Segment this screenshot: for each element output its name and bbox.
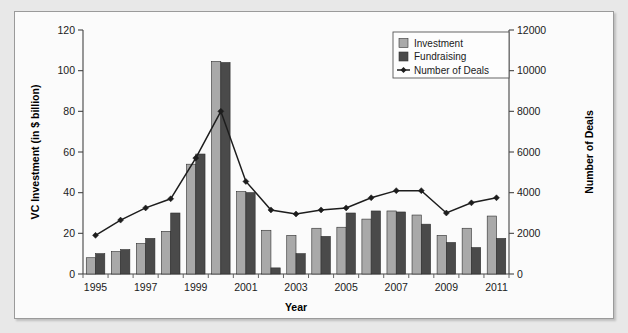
- bar-investment-2003: [287, 235, 296, 274]
- bar-fundraising-2011: [496, 238, 505, 274]
- bar-fundraising-2004: [321, 236, 330, 274]
- deals-marker-2006: [368, 195, 374, 201]
- bar-investment-1997: [136, 244, 145, 275]
- y-tick-label-right: 0: [517, 268, 523, 280]
- y-tick-label-left: 100: [57, 64, 75, 76]
- y-tick-label-right: 10000: [517, 64, 546, 76]
- y-tick-label-left: 20: [63, 227, 75, 239]
- bar-fundraising-1998: [171, 213, 180, 274]
- y-tick-label-left: 120: [57, 24, 75, 36]
- x-tick-label: 2009: [435, 281, 459, 293]
- deals-marker-1997: [143, 205, 149, 211]
- deals-marker-2005: [343, 205, 349, 211]
- bar-fundraising-1996: [121, 250, 130, 274]
- deals-marker-2011: [493, 195, 499, 201]
- x-tick-label: 1999: [184, 281, 208, 293]
- bar-investment-1998: [161, 231, 170, 274]
- y-axis-right: 020004000600080001000012000: [509, 24, 546, 280]
- bar-investment-2011: [487, 216, 496, 274]
- bar-investment-2004: [312, 228, 321, 274]
- legend-label-fundraising: Fundraising: [414, 51, 466, 62]
- vc-investment-chart: 020406080100120 020004000600080001000012…: [15, 12, 613, 318]
- bar-fundraising-1995: [96, 254, 105, 274]
- x-tick-label: 2001: [234, 281, 258, 293]
- line-series-number-of-deals: [93, 108, 500, 238]
- x-tick-label: 2007: [385, 281, 409, 293]
- x-tick-label: 2005: [334, 281, 358, 293]
- legend-swatch-fundraising: [399, 52, 408, 61]
- bar-fundraising-2000: [221, 63, 230, 274]
- deals-marker-2004: [318, 207, 324, 213]
- y-tick-label-right: 6000: [517, 146, 541, 158]
- bar-investment-2010: [462, 228, 471, 274]
- bar-investment-1995: [86, 258, 95, 274]
- bar-fundraising-2007: [396, 212, 405, 274]
- y-tick-label-right: 8000: [517, 105, 541, 117]
- y-tick-label-left: 60: [63, 146, 75, 158]
- legend-swatch-investment: [399, 39, 408, 48]
- y-tick-label-left: 80: [63, 105, 75, 117]
- bar-investment-2001: [237, 192, 246, 274]
- y-axis-right-title: Number of Deals: [583, 110, 595, 194]
- bar-investment-2009: [437, 235, 446, 274]
- bar-fundraising-1999: [196, 154, 205, 274]
- x-tick-label: 1997: [134, 281, 158, 293]
- bar-investment-1999: [186, 164, 195, 274]
- bar-investment-2005: [337, 227, 346, 274]
- x-axis: 199519971999200120032005200720092011: [83, 274, 509, 293]
- bar-fundraising-2006: [371, 211, 380, 274]
- x-tick-label: 1995: [84, 281, 108, 293]
- bar-investment-2007: [387, 211, 396, 274]
- y-tick-label-right: 2000: [517, 227, 541, 239]
- x-axis-title: Year: [285, 301, 307, 313]
- y-axis-left-title: VC Investment (in $ billion): [29, 85, 41, 220]
- bar-investment-2006: [362, 219, 371, 274]
- y-tick-label-left: 0: [69, 268, 75, 280]
- bar-fundraising-2005: [346, 213, 355, 274]
- bar-fundraising-2003: [296, 254, 305, 274]
- deals-marker-2007: [393, 188, 399, 194]
- x-tick-label: 2011: [485, 281, 508, 293]
- chart-legend: InvestmentFundraisingNumber of Deals: [393, 32, 509, 78]
- bar-fundraising-2001: [246, 193, 255, 274]
- legend-label-number-of-deals: Number of Deals: [414, 65, 489, 76]
- bar-investment-2008: [412, 215, 421, 274]
- deals-marker-2010: [468, 200, 474, 206]
- bar-fundraising-1997: [146, 238, 155, 274]
- y-tick-label-right: 12000: [517, 24, 546, 36]
- deals-marker-2003: [293, 211, 299, 217]
- bar-investment-2002: [262, 230, 271, 274]
- bar-fundraising-2008: [421, 224, 430, 274]
- bar-investment-2000: [212, 62, 221, 274]
- y-tick-label-left: 40: [63, 186, 75, 198]
- x-tick-label: 2003: [284, 281, 308, 293]
- y-tick-label-right: 4000: [517, 186, 541, 198]
- y-axis-left: 020406080100120: [57, 24, 83, 280]
- bar-investment-1996: [111, 252, 120, 274]
- bar-fundraising-2010: [471, 248, 480, 274]
- legend-label-investment: Investment: [414, 38, 463, 49]
- bar-fundraising-2009: [446, 242, 455, 274]
- chart-figure-frame: 020406080100120 020004000600080001000012…: [14, 11, 614, 319]
- bar-fundraising-2002: [271, 268, 280, 274]
